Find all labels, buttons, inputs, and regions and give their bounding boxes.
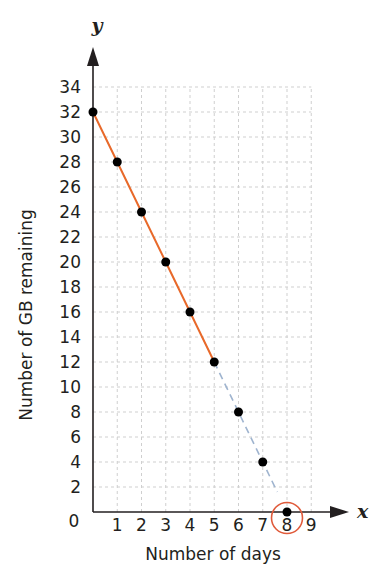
data-point <box>137 208 146 217</box>
x-tick-label: 4 <box>185 515 196 535</box>
y-tick-label: 8 <box>70 402 81 422</box>
y-tick-label: 32 <box>59 102 81 122</box>
y-tick-label: 22 <box>59 227 81 247</box>
y-tick-label: 6 <box>70 427 81 447</box>
data-point <box>210 358 219 367</box>
x-tick-label: 8 <box>282 515 293 535</box>
x-tick-label: 5 <box>209 515 220 535</box>
data-point <box>113 158 122 167</box>
data-point <box>234 408 243 417</box>
y-tick-label: 18 <box>59 277 81 297</box>
y-axis-title: Number of GB remaining <box>16 209 36 421</box>
y-tick-label: 26 <box>59 177 81 197</box>
data-lines <box>93 112 277 492</box>
y-tick-label: 10 <box>59 377 81 397</box>
x-tick-label: 1 <box>112 515 123 535</box>
data-point <box>186 308 195 317</box>
grid <box>93 87 311 512</box>
data-point <box>258 458 267 467</box>
y-tick-labels: 246810121416182022242628303234 <box>59 77 81 497</box>
line-chart: 246810121416182022242628303234 123456789… <box>0 0 384 588</box>
x-tick-label: 3 <box>160 515 171 535</box>
data-point <box>161 258 170 267</box>
x-tick-labels: 123456789 <box>112 515 317 535</box>
x-tick-label: 2 <box>136 515 147 535</box>
y-tick-label: 34 <box>59 77 81 97</box>
origin-label: 0 <box>69 511 80 531</box>
y-axis-variable: y <box>90 14 104 36</box>
y-tick-label: 28 <box>59 152 81 172</box>
axes <box>87 47 349 518</box>
y-tick-label: 2 <box>70 477 81 497</box>
y-tick-label: 4 <box>70 452 81 472</box>
x-axis-title: Number of days <box>145 544 281 564</box>
data-point <box>283 508 292 517</box>
x-axis-arrow-icon <box>330 506 349 518</box>
y-tick-label: 12 <box>59 352 81 372</box>
y-tick-label: 30 <box>59 127 81 147</box>
y-axis-arrow-icon <box>87 47 99 66</box>
x-tick-label: 7 <box>257 515 268 535</box>
y-tick-label: 20 <box>59 252 81 272</box>
x-axis-variable: x <box>356 500 369 522</box>
x-tick-label: 6 <box>233 515 244 535</box>
y-tick-label: 14 <box>59 327 81 347</box>
x-tick-label: 9 <box>306 515 317 535</box>
y-tick-label: 24 <box>59 202 81 222</box>
y-tick-label: 16 <box>59 302 81 322</box>
extrapolated-line <box>214 362 277 492</box>
data-point <box>89 108 98 117</box>
